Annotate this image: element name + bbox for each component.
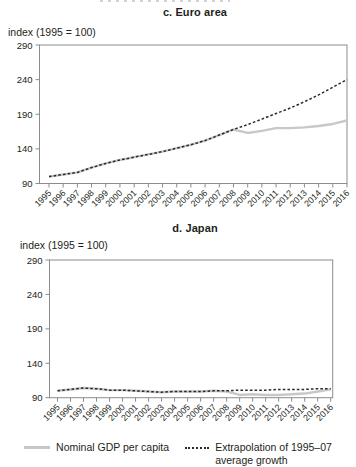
japan-axis-caption: index (1995 = 100) xyxy=(20,239,108,251)
x-tick-label: 2016 xyxy=(330,188,351,209)
y-tick-label: 190 xyxy=(27,323,43,334)
plot-border xyxy=(50,260,333,398)
legend-item-nominal: Nominal GDP per capita xyxy=(24,441,169,454)
nominal-line-label: Nominal GDP per capita xyxy=(56,441,169,454)
y-tick-label: 290 xyxy=(17,40,33,51)
extrapolation-line-label: Extrapolation of 1995–07 average growth xyxy=(215,441,332,467)
y-tick-label: 90 xyxy=(22,178,33,189)
y-tick-label: 240 xyxy=(27,289,43,300)
y-tick-label: 240 xyxy=(17,74,33,85)
nominal-line-swatch xyxy=(24,446,50,449)
y-tick-label: 290 xyxy=(27,255,43,266)
y-tick-label: 140 xyxy=(27,358,43,369)
japan-title: d. Japan xyxy=(34,222,356,234)
chart-legend: Nominal GDP per capita Extrapolation of … xyxy=(0,441,356,467)
plot-border xyxy=(40,45,348,184)
legend-item-extrapolation: Extrapolation of 1995–07 average growth xyxy=(185,441,332,467)
y-tick-label: 140 xyxy=(17,143,33,154)
y-tick-label: 90 xyxy=(32,392,43,403)
euro-area-chart: 9014019024029019951996199719981999200020… xyxy=(0,40,356,225)
euro-area-title: c. Euro area xyxy=(34,6,356,18)
extrapolation-line-swatch xyxy=(185,447,209,449)
y-tick-label: 190 xyxy=(17,109,33,120)
nominal-gdp-line xyxy=(49,120,347,176)
japan-chart: 9014019024029019951996199719981999200020… xyxy=(0,255,356,441)
euro-area-axis-caption: index (1995 = 100) xyxy=(8,26,96,38)
cropped-text-remnant xyxy=(100,0,230,2)
